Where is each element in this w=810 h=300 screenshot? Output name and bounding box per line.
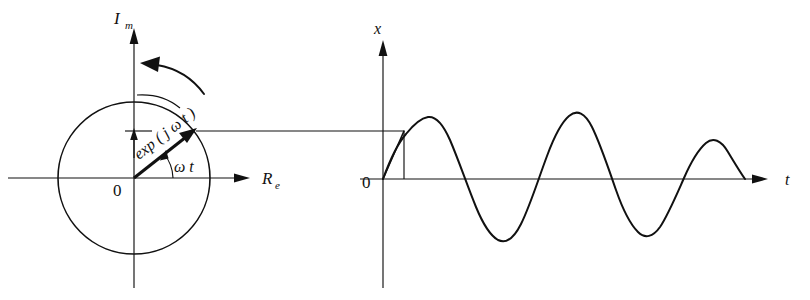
x-axis-vertical — [379, 40, 388, 288]
figure-root: I m R e 0 exp ( j ω t ) ω t — [0, 0, 810, 300]
right-panel-waveform: x t 0 — [360, 20, 790, 288]
arrow-right-icon — [752, 174, 768, 183]
figure-canvas: I m R e 0 exp ( j ω t ) ω t — [0, 0, 810, 300]
real-axis — [8, 173, 250, 182]
x-axis-label: x — [373, 20, 381, 37]
real-axis-label-text: R — [261, 169, 273, 188]
t-axis-label: t — [785, 171, 790, 188]
arrow-up-icon — [130, 128, 138, 140]
arrow-right-icon — [234, 173, 250, 182]
right-origin-label: 0 — [362, 173, 371, 192]
arrow-up-icon — [379, 40, 388, 56]
imaginary-axis-label-text: I — [113, 9, 121, 28]
real-axis-label: R e — [261, 169, 280, 191]
t-axis-horizontal — [360, 174, 768, 183]
imaginary-axis-label-subscript: m — [125, 19, 133, 31]
left-origin-label: 0 — [113, 181, 122, 200]
rotation-direction-arrow — [140, 57, 204, 95]
curved-arrow-ccw-icon — [140, 57, 160, 73]
sine-waveform — [383, 113, 745, 242]
angle-label: ω t — [174, 158, 194, 175]
imaginary-axis-label: I m — [113, 9, 133, 31]
real-axis-label-subscript: e — [275, 179, 280, 191]
left-panel-complex-plane: I m R e 0 exp ( j ω t ) ω t — [8, 9, 280, 288]
